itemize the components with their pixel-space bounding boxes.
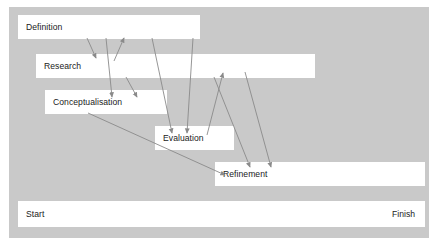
stage-bar-definition: Definition [18, 15, 200, 39]
stage-bar-research: Research [36, 54, 315, 78]
stage-bar-refinement: Refinement [215, 162, 425, 186]
timeline-start-label: Start [18, 210, 44, 219]
stage-label-evaluation: Evaluation [155, 134, 204, 143]
timeline-finish-label: Finish [392, 210, 425, 219]
stage-label-refinement: Refinement [215, 170, 267, 179]
stage-label-definition: Definition [18, 23, 62, 32]
stage-label-conceptualisation: Conceptualisation [45, 98, 122, 107]
stage-bar-evaluation: Evaluation [155, 126, 234, 150]
stage-label-research: Research [36, 62, 81, 71]
timeline-bar: Start Finish [18, 201, 425, 227]
diagram-canvas: Definition Research Conceptualisation Ev… [0, 0, 438, 246]
stage-bar-conceptualisation: Conceptualisation [45, 90, 167, 114]
